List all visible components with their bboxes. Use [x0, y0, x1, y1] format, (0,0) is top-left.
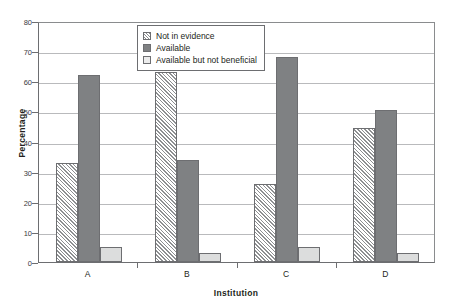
y-axis-tick-label: 20 — [6, 198, 32, 207]
y-axis-tick-mark — [32, 263, 38, 264]
bar — [199, 253, 221, 262]
legend: Not in evidenceAvailableAvailable but no… — [137, 25, 265, 71]
legend-label: Available but not beneficial — [156, 54, 257, 66]
bar — [100, 247, 122, 262]
legend-swatch-icon — [143, 56, 151, 64]
x-axis-tick-label: A — [68, 269, 108, 279]
legend-item: Available — [143, 42, 257, 54]
legend-swatch-icon — [143, 32, 151, 40]
x-axis-tick-mark — [137, 263, 138, 268]
y-axis-tick-label: 40 — [6, 138, 32, 147]
x-axis-tick-label: B — [167, 269, 207, 279]
legend-swatch-icon — [143, 44, 151, 52]
y-axis-tick-label: 60 — [6, 78, 32, 87]
bar — [78, 75, 100, 262]
x-axis-title: Institution — [36, 288, 436, 298]
bar — [56, 163, 78, 262]
x-axis-tick-label: C — [266, 269, 306, 279]
bar — [298, 247, 320, 262]
bar-chart-figure: Percentage Institution 01020304050607080… — [0, 0, 453, 308]
y-axis-tick-label: 30 — [6, 168, 32, 177]
x-axis-tick-label: D — [365, 269, 405, 279]
bar — [276, 57, 298, 262]
legend-label: Not in evidence — [156, 30, 215, 42]
y-axis-tick-label: 0 — [6, 259, 32, 268]
bar — [397, 253, 419, 262]
x-axis-tick-mark — [237, 263, 238, 268]
legend-label: Available — [156, 42, 190, 54]
bar — [177, 160, 199, 262]
y-axis-tick-label: 50 — [6, 108, 32, 117]
legend-item: Available but not beneficial — [143, 54, 257, 66]
bar — [353, 128, 375, 262]
x-axis-tick-mark — [336, 263, 337, 268]
bar — [155, 72, 177, 262]
y-axis-tick-label: 70 — [6, 48, 32, 57]
bar — [375, 110, 397, 262]
bar — [254, 184, 276, 262]
legend-item: Not in evidence — [143, 30, 257, 42]
y-axis-tick-label: 10 — [6, 228, 32, 237]
y-axis-tick-label: 80 — [6, 18, 32, 27]
